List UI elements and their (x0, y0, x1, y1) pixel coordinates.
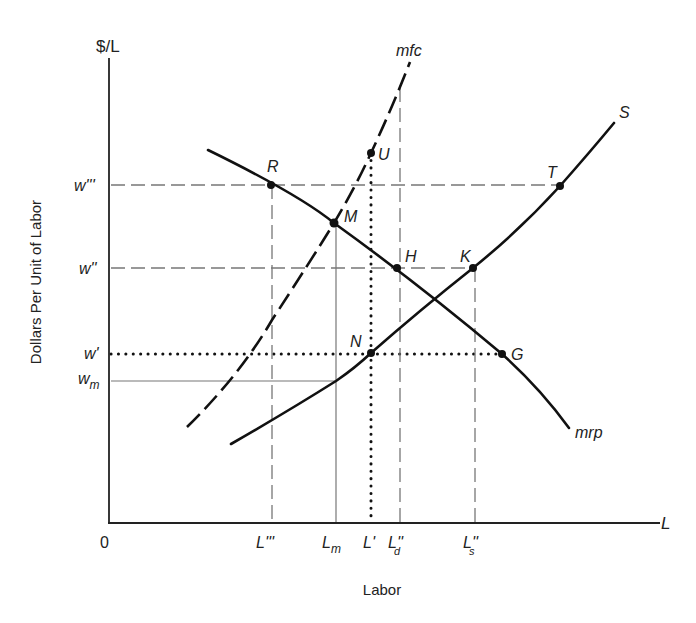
point-K (469, 264, 477, 272)
x-tick-labels: L''' Lm L' L''d L''s (256, 534, 479, 557)
xtick-L3: L''' (256, 534, 275, 551)
curve-labels: mfc S mrp (396, 42, 630, 441)
label-H: H (405, 248, 417, 265)
label-M: M (344, 208, 358, 225)
ytick-w3: w''' (74, 177, 96, 194)
label-N: N (350, 333, 362, 350)
label-K: K (460, 248, 472, 265)
xtick-Ld: L''d (388, 534, 404, 557)
label-R: R (267, 158, 279, 175)
label-S: S (619, 104, 630, 121)
point-N (367, 349, 375, 357)
x-axis-title: Labor (363, 581, 401, 598)
ytick-wm: wm (78, 370, 100, 392)
xtick-L1: L' (363, 534, 376, 551)
y-axis-symbol: $/L (96, 37, 120, 56)
ytick-w2: w'' (79, 260, 98, 277)
xtick-Ls: L''s (463, 534, 479, 557)
y-axis-title: Dollars Per Unit of Labor (27, 200, 44, 364)
label-T: T (547, 164, 558, 181)
ytick-w1: w' (84, 345, 100, 362)
point-M (330, 219, 339, 228)
point-R (267, 181, 275, 189)
labor-market-chart: R M U T H K N G mfc S mrp $/L L 0 w''' w… (0, 0, 696, 623)
point-G (498, 350, 506, 358)
label-G: G (511, 346, 523, 363)
point-T (556, 182, 564, 190)
origin-label: 0 (100, 534, 109, 551)
label-mrp: mrp (575, 424, 603, 441)
xtick-Lm: Lm (322, 534, 341, 556)
axes (108, 58, 660, 524)
guide-lines (111, 88, 560, 523)
point-labels: R M U T H K N G (267, 146, 558, 363)
point-U (367, 149, 375, 157)
mfc-curve (187, 62, 410, 427)
mrp-curve (208, 150, 569, 428)
point-H (393, 264, 401, 272)
x-axis-symbol: L (661, 514, 670, 533)
label-mfc: mfc (396, 42, 422, 59)
y-tick-labels: w''' w'' w' wm (74, 177, 100, 392)
label-U: U (378, 146, 390, 163)
